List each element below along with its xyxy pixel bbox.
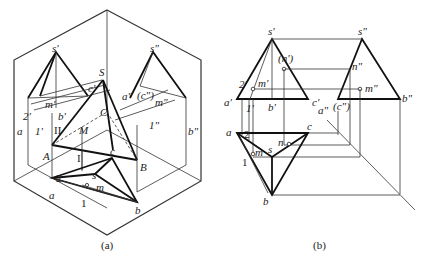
label-m: m bbox=[96, 181, 104, 193]
label-A: A bbox=[42, 150, 50, 162]
label-a-prime: a bbox=[17, 125, 23, 137]
label-2-prime: 2' bbox=[23, 110, 32, 122]
label-S: S bbox=[99, 66, 105, 78]
label-b-c: c bbox=[307, 120, 312, 132]
label-M: M bbox=[78, 124, 89, 136]
label-b-m-prime: m' bbox=[258, 77, 269, 89]
label-b-b-prime: b' bbox=[268, 101, 277, 113]
label-s-dprime: s" bbox=[150, 42, 159, 54]
label-b-s-prime: s' bbox=[268, 25, 275, 37]
label-b-a-dprime: a" bbox=[318, 104, 329, 116]
label-b-m: m bbox=[255, 146, 263, 158]
label-b-1-prime: 1' bbox=[246, 102, 255, 114]
hexagon-frame bbox=[14, 10, 201, 235]
label-b: b bbox=[135, 204, 141, 216]
label-a-dprime: a" bbox=[122, 90, 133, 102]
label-1-dprime: 1" bbox=[149, 119, 160, 131]
label-b-n-prime: (n') bbox=[278, 52, 294, 65]
label-C: C bbox=[100, 106, 108, 118]
caption-b: (b) bbox=[313, 239, 326, 252]
figure-b: s' s" (n') n" 2' m' m" a' 1' b' c' a" (c… bbox=[224, 25, 415, 252]
label-1: 1 bbox=[81, 197, 87, 209]
label-m-prime: m' bbox=[45, 98, 56, 110]
label-b-dprime: b" bbox=[188, 125, 199, 137]
label-b-m-dprime: m" bbox=[365, 82, 378, 94]
label-s-prime: s' bbox=[52, 42, 59, 54]
label-b-c-dprime: (c") bbox=[333, 100, 350, 113]
label-b-1: 1 bbox=[242, 156, 248, 168]
label-b-n: n bbox=[278, 136, 284, 148]
label-2: 2 bbox=[56, 172, 62, 184]
label-b-2-prime: 2' bbox=[239, 78, 248, 90]
projection-diagrams: s' s" S c' a" (c") m" m' 2' b' C a 1' II… bbox=[0, 0, 423, 260]
label-b-b: b bbox=[263, 195, 269, 207]
figure-a: s' s" S c' a" (c") m" m' 2' b' C a 1' II… bbox=[14, 10, 201, 252]
label-II: II bbox=[54, 124, 62, 136]
label-b-s: s bbox=[268, 143, 272, 155]
label-1-prime: 1' bbox=[35, 125, 44, 137]
label-B: B bbox=[140, 161, 147, 173]
label-m-dprime: m" bbox=[155, 96, 168, 108]
label-b-b-dprime: b" bbox=[402, 92, 413, 104]
label-b-a-prime: a' bbox=[224, 96, 233, 108]
label-a: a bbox=[49, 189, 55, 201]
label-b-a: a bbox=[226, 126, 232, 138]
label-I: I bbox=[77, 152, 81, 164]
caption-a: (a) bbox=[101, 239, 114, 252]
label-b-2: 2 bbox=[244, 128, 250, 140]
label-b-s-dprime: s" bbox=[358, 25, 367, 37]
label-c-dprime: (c") bbox=[137, 89, 154, 102]
label-b-prime: b' bbox=[58, 110, 67, 122]
label-s: s bbox=[92, 169, 96, 181]
label-c-prime: c' bbox=[88, 82, 96, 94]
label-b-n-dprime: n" bbox=[352, 60, 363, 72]
label-c: c bbox=[110, 145, 115, 157]
